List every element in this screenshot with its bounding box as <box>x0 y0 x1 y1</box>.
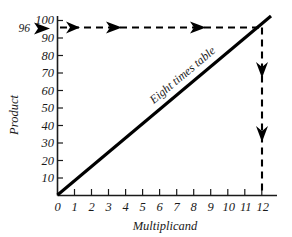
y-tick-label-70: 70 <box>42 66 55 80</box>
y-axis-title: Product <box>7 95 21 136</box>
series-label-eight-times-table: Eight times table <box>146 43 219 107</box>
x-tick-label-1: 1 <box>71 200 77 214</box>
y-tick-label-40: 40 <box>42 119 55 133</box>
y-axis-tick-labels: 100 90 80 70 60 50 40 30 20 10 <box>35 13 55 185</box>
x-axis-tick-labels: 0 1 2 3 4 5 6 7 8 9 10 11 12 <box>54 200 269 214</box>
horizontal-guide-arrow-1 <box>66 22 80 34</box>
x-tick-label-7: 7 <box>174 200 181 214</box>
x-axis-title: Multiplicand <box>132 219 198 233</box>
y-tick-label-60: 60 <box>42 84 55 98</box>
x-tick-label-0: 0 <box>54 200 61 214</box>
series-line-eight-times-table <box>58 16 272 195</box>
x-tick-label-11: 11 <box>240 200 252 214</box>
chart-container: 100 90 80 70 60 50 40 30 20 10 0 1 2 3 4… <box>0 0 292 237</box>
times-table-line-chart: 100 90 80 70 60 50 40 30 20 10 0 1 2 3 4… <box>0 0 292 237</box>
y-tick-label-20: 20 <box>42 154 55 168</box>
x-tick-label-12: 12 <box>257 200 270 214</box>
y-tick-label-10: 10 <box>42 171 55 185</box>
y-tick-label-80: 80 <box>42 49 55 63</box>
x-tick-label-3: 3 <box>104 200 111 214</box>
x-tick-label-2: 2 <box>88 200 94 214</box>
callout-value-96: 96 <box>19 22 31 34</box>
x-tick-label-6: 6 <box>156 200 163 214</box>
x-tick-label-4: 4 <box>122 200 128 214</box>
y-tick-label-50: 50 <box>42 101 55 115</box>
vertical-guide-group <box>256 28 268 195</box>
x-tick-label-10: 10 <box>223 200 236 214</box>
x-tick-label-8: 8 <box>191 200 198 214</box>
y-tick-label-90: 90 <box>42 31 55 45</box>
x-tick-label-9: 9 <box>208 200 215 214</box>
x-tick-label-5: 5 <box>139 200 145 214</box>
y-axis-ticks <box>58 21 64 179</box>
y-tick-label-30: 30 <box>41 136 55 150</box>
x-axis-ticks <box>75 189 262 196</box>
horizontal-guide-group <box>60 22 262 34</box>
